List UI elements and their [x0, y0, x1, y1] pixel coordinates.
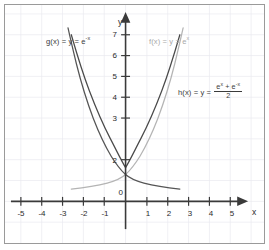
x-tick-label-4: 4: [201, 210, 221, 218]
annotation-g-text: g(x) = y = e: [46, 37, 86, 46]
annotation-h-num-plus: +: [223, 82, 232, 91]
annotation-f-text: f(x) = y = e: [149, 37, 187, 46]
y-tick-label-6: 6: [103, 52, 117, 60]
annotation-h: h(x) = y = ex + e-x 2: [178, 83, 243, 99]
x-tick-label-1: 1: [138, 210, 158, 218]
x-axis-name: x: [252, 208, 256, 217]
annotation-h-text: h(x) = y =: [178, 88, 213, 97]
annotation-h-num-b-exp: -x: [236, 81, 241, 87]
x-tick-label--1: -1: [95, 210, 115, 218]
x-axis-arrowhead: [237, 197, 248, 207]
y-tick-label-7: 7: [103, 31, 117, 39]
annotation-g: g(x) = y = e-x: [46, 38, 90, 46]
x-tick-label-5: 5: [222, 210, 242, 218]
x-tick-label--4: -4: [32, 210, 52, 218]
y-tick-label-5: 5: [103, 73, 117, 81]
annotation-h-denominator: 2: [214, 92, 242, 100]
y-tick-label-3: 3: [103, 115, 117, 123]
x-tick-label-2: 2: [159, 210, 179, 218]
x-tick-label--2: -2: [74, 210, 94, 218]
x-tick-label--5: -5: [11, 210, 31, 218]
exponential-functions-graph: -5 -4 -3 -2 -1 1 2 3 4 5 2 3 4 5 6 7 0 y…: [0, 0, 269, 250]
annotation-h-fraction: ex + e-x 2: [214, 83, 242, 99]
annotation-f-exponent: x: [187, 35, 190, 41]
y-axis-name: y: [118, 18, 122, 27]
y-tick-label-2: 2: [103, 157, 117, 165]
plot-frame: -5 -4 -3 -2 -1 1 2 3 4 5 2 3 4 5 6 7 0 y…: [4, 4, 265, 244]
x-tick-label-3: 3: [180, 210, 200, 218]
origin-label: 0: [109, 189, 123, 197]
y-tick-label-4: 4: [103, 94, 117, 102]
annotation-f: f(x) = y = ex: [149, 38, 189, 46]
annotation-g-exponent: -x: [86, 35, 91, 41]
axis-layer: [5, 5, 264, 243]
x-tick-label--3: -3: [53, 210, 73, 218]
